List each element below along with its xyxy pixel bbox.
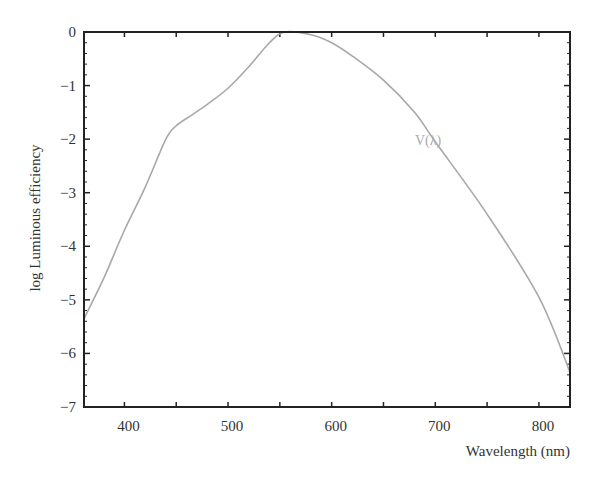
x-tick-label: 600 xyxy=(324,418,347,434)
plot-frame xyxy=(84,32,570,407)
y-tick-label: −1 xyxy=(60,78,76,94)
series-line-v-lambda xyxy=(84,32,570,373)
y-tick-label: −3 xyxy=(60,185,76,201)
y-tick-label: −7 xyxy=(60,399,76,415)
y-axis-label: log Luminous efficiency xyxy=(27,144,43,292)
x-axis-label: Wavelength (nm) xyxy=(466,443,570,460)
y-axis: 0−1−2−3−4−5−6−7 xyxy=(60,24,570,415)
series-label: V(λ) xyxy=(415,133,442,149)
luminous-efficiency-chart: 0−1−2−3−4−5−6−7 400500600700800 V(λ) Wav… xyxy=(0,0,604,482)
y-tick-label: −5 xyxy=(60,292,76,308)
y-tick-label: −2 xyxy=(60,131,76,147)
x-tick-label: 700 xyxy=(428,418,451,434)
x-tick-label: 400 xyxy=(117,418,140,434)
y-tick-label: −4 xyxy=(60,238,76,254)
x-tick-label: 500 xyxy=(221,418,244,434)
y-tick-label: 0 xyxy=(69,24,77,40)
x-axis: 400500600700800 xyxy=(117,32,554,434)
x-tick-label: 800 xyxy=(532,418,555,434)
y-tick-label: −6 xyxy=(60,345,76,361)
